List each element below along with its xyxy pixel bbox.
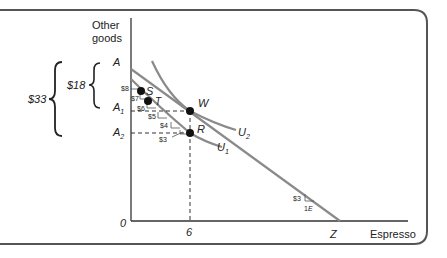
brace-outer-label: $33 (27, 93, 47, 105)
slope-price-label: $3 (293, 195, 301, 202)
point-r (186, 129, 194, 137)
label-u2: U2 (238, 126, 250, 140)
y-axis-label-2: goods (92, 32, 122, 44)
frame (0, 10, 427, 244)
x-tick-6: 6 (186, 226, 193, 238)
label-z: Z (329, 228, 338, 240)
origin-label: 0 (120, 217, 127, 229)
slope-unit-label: 1E (304, 205, 313, 212)
step-label-3: $3 (159, 136, 167, 143)
y-axis-label-1: Other (92, 19, 120, 31)
indifference-curve-u2 (152, 61, 236, 130)
label-w: W (198, 97, 210, 109)
point-w (186, 107, 194, 115)
step-label-4: $4 (160, 122, 168, 129)
x-axis-label: Espresso (370, 228, 416, 240)
diagram-canvas: Other goods Espresso 0 6 A A1 A2 S T W R… (0, 0, 447, 258)
indifference-curve-u1 (131, 79, 222, 147)
point-t (144, 97, 152, 105)
label-r: R (197, 123, 205, 135)
brace-inner-label: $18 (66, 79, 86, 91)
label-s: S (146, 85, 154, 97)
step-label-7: $7 (131, 95, 139, 102)
step-label-6: $6 (137, 105, 145, 112)
label-a: A (112, 56, 120, 68)
budget-line (131, 69, 340, 221)
point-s (137, 87, 145, 95)
step-label-8: $8 (121, 85, 129, 92)
step-label-5: $5 (148, 113, 156, 120)
brace-outer (49, 62, 62, 136)
label-a1: A1 (112, 101, 124, 115)
label-a2: A2 (112, 126, 124, 140)
label-t: T (155, 96, 162, 107)
label-u1: U1 (217, 141, 229, 155)
brace-inner (89, 63, 100, 108)
